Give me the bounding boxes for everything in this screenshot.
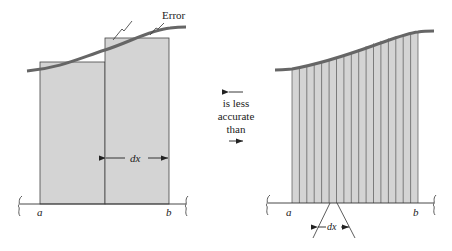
left-rectangle-2	[105, 38, 169, 204]
middle-line-1: is less	[223, 97, 250, 109]
comparison-text: is less accurate than	[218, 92, 255, 141]
right-dx-label: dx	[327, 221, 337, 232]
right-area-fill	[292, 32, 418, 203]
left-rectangle-1	[40, 62, 105, 204]
left-brace-left	[18, 196, 22, 216]
error-pointer-1	[113, 21, 132, 40]
error-label: Error	[162, 9, 186, 21]
right-dx-guide-right	[337, 203, 355, 238]
left-panel: Error dx a b	[18, 9, 188, 218]
right-panel: a b dx	[266, 31, 436, 238]
left-dx-label: dx	[130, 152, 141, 164]
left-b-label: b	[166, 206, 172, 218]
right-brace-right	[433, 195, 436, 215]
right-a-label: a	[286, 206, 292, 218]
right-b-label: b	[413, 206, 419, 218]
right-brace-left	[266, 195, 270, 215]
middle-line-2: accurate	[218, 110, 255, 122]
middle-line-3: than	[227, 123, 246, 135]
left-brace-right	[185, 196, 188, 216]
integration-diagram: Error dx a b is less accurate than a b d…	[0, 0, 452, 251]
left-a-label: a	[37, 206, 43, 218]
